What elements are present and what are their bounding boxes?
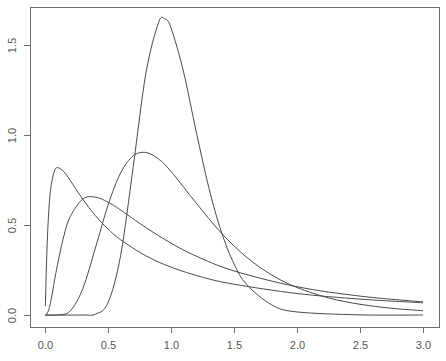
y-tick-label: 1.0 bbox=[6, 128, 18, 143]
y-tick-label: 1.5 bbox=[6, 38, 18, 53]
density-curve-2 bbox=[46, 197, 423, 315]
x-tick-label: 3.0 bbox=[416, 339, 431, 351]
y-tick-label: 0.0 bbox=[6, 308, 18, 323]
density-curve-1 bbox=[45, 168, 423, 307]
y-tick-label: 0.5 bbox=[6, 218, 18, 233]
density-curve-3 bbox=[45, 152, 423, 315]
chart-canvas: 0.00.51.01.52.02.53.0 0.00.51.01.5 bbox=[0, 0, 446, 361]
x-tick-label: 1.0 bbox=[164, 339, 179, 351]
plot-curves bbox=[45, 17, 423, 315]
x-tick-label: 0.0 bbox=[38, 339, 53, 351]
x-tick-label: 1.5 bbox=[227, 339, 242, 351]
x-axis: 0.00.51.01.52.02.53.0 bbox=[38, 327, 431, 351]
y-axis: 0.00.51.01.5 bbox=[6, 38, 30, 323]
x-tick-label: 0.5 bbox=[101, 339, 116, 351]
x-tick-label: 2.5 bbox=[353, 339, 368, 351]
plot-frame bbox=[31, 8, 440, 328]
x-tick-label: 2.0 bbox=[290, 339, 305, 351]
